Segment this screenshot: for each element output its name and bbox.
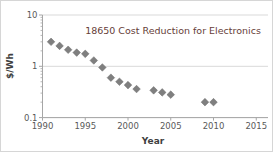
data-point-1997 bbox=[99, 64, 107, 72]
data-point-2000 bbox=[124, 81, 132, 89]
data-points-layer bbox=[47, 38, 217, 106]
data-point-2001 bbox=[133, 85, 141, 93]
data-point-1994 bbox=[73, 49, 81, 57]
x-tick-label: 1990 bbox=[32, 121, 54, 131]
data-point-2004 bbox=[158, 89, 166, 97]
data-point-1996 bbox=[90, 57, 98, 65]
data-point-2003 bbox=[150, 87, 158, 95]
x-tick-label: 2010 bbox=[203, 121, 225, 131]
data-point-1993 bbox=[64, 46, 72, 54]
y-axis-label: $/Wh bbox=[5, 53, 15, 79]
scatter-chart: 1010.1199019952000200520102015 18650 Cos… bbox=[1, 1, 273, 152]
x-tick-label: 1995 bbox=[74, 121, 96, 131]
data-point-1998 bbox=[107, 74, 115, 82]
data-point-1992 bbox=[56, 42, 64, 50]
data-point-2009 bbox=[201, 98, 209, 106]
y-tick-label: 10 bbox=[27, 10, 38, 20]
y-tick-label: 1 bbox=[32, 61, 37, 71]
x-tick-label: 2000 bbox=[117, 121, 139, 131]
data-point-1995 bbox=[81, 50, 89, 58]
data-point-2010 bbox=[210, 98, 218, 106]
x-tick-label: 2015 bbox=[245, 121, 267, 131]
chart-title: 18650 Cost Reduction for Electronics bbox=[85, 25, 261, 36]
chart-container: 1010.1199019952000200520102015 18650 Cos… bbox=[0, 0, 273, 152]
data-point-1991 bbox=[47, 38, 55, 46]
data-point-2005 bbox=[167, 91, 175, 99]
data-point-1999 bbox=[116, 78, 124, 86]
x-axis-label: Year bbox=[141, 136, 165, 146]
x-tick-label: 2005 bbox=[160, 121, 182, 131]
